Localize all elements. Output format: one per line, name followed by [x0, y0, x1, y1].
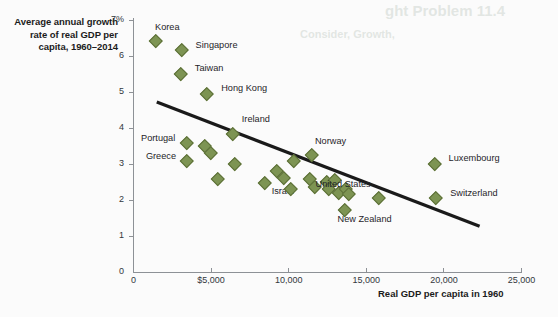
x-tick-mark: [366, 268, 367, 272]
scatter-point-label: New Zealand: [338, 214, 392, 224]
scatter-point-label: United States: [316, 179, 371, 189]
scatter-point[interactable]: [429, 191, 442, 204]
scatter-point-label: Greece: [146, 151, 176, 161]
x-axis-title: Real GDP per capita in 1960: [378, 288, 504, 299]
y-tick-label: 2: [84, 194, 124, 204]
y-tick-label: 7%: [84, 14, 124, 24]
scatter-point-label: Korea: [155, 22, 180, 32]
scatter-point[interactable]: [201, 87, 214, 100]
x-tick-label: $5,000: [176, 275, 246, 285]
x-tick-label: 25,000: [487, 275, 557, 285]
scatter-point[interactable]: [175, 43, 188, 56]
page-bleed-through-line-1: ght Problem 11.4: [385, 2, 505, 19]
y-tick-label: 5: [84, 86, 124, 96]
x-tick-mark: [443, 268, 444, 272]
y-tick-mark: [129, 128, 133, 129]
scatter-point[interactable]: [372, 191, 385, 204]
x-axis-line: [133, 272, 522, 273]
scatter-point-label: Hong Kong: [221, 83, 267, 93]
scatter-point[interactable]: [180, 154, 193, 167]
scatter-point[interactable]: [211, 172, 224, 185]
y-tick-label: 3: [84, 158, 124, 168]
y-tick-mark: [129, 56, 133, 57]
scatter-point-label: Luxembourg: [449, 153, 500, 163]
x-tick-mark: [288, 268, 289, 272]
y-tick-label: 6: [84, 50, 124, 60]
y-tick-mark: [129, 164, 133, 165]
chart-figure: ght Problem 11.4 Consider, Growth, Avera…: [0, 0, 558, 317]
scatter-point[interactable]: [174, 67, 187, 80]
scatter-point-label: Portugal: [141, 133, 175, 143]
page-bleed-through-line-2: Consider, Growth,: [300, 28, 395, 40]
scatter-point-label: Taiwan: [195, 63, 224, 73]
scatter-point[interactable]: [149, 34, 162, 47]
x-tick-label: 20,000: [409, 275, 479, 285]
scatter-point-label: Ireland: [242, 114, 270, 124]
scatter-point[interactable]: [226, 127, 239, 140]
scatter-point-label: Singapore: [196, 40, 238, 50]
scatter-point-label: Norway: [315, 136, 346, 146]
scatter-point[interactable]: [305, 148, 318, 161]
scatter-point[interactable]: [287, 154, 300, 167]
scatter-point[interactable]: [428, 157, 441, 170]
x-tick-mark: [211, 268, 212, 272]
y-tick-label: 4: [84, 122, 124, 132]
x-tick-label: 0: [99, 275, 169, 285]
scatter-point[interactable]: [258, 176, 271, 189]
x-tick-label: 10,000: [254, 275, 324, 285]
scatter-point-label: Switzerland: [450, 188, 498, 198]
y-tick-label: 1: [84, 230, 124, 240]
y-axis-line: [133, 18, 134, 272]
x-tick-mark: [521, 268, 522, 272]
x-tick-label: 15,000: [331, 275, 401, 285]
y-tick-mark: [129, 200, 133, 201]
scatter-point[interactable]: [228, 157, 241, 170]
y-tick-mark: [129, 236, 133, 237]
y-tick-mark: [129, 92, 133, 93]
y-tick-mark: [129, 20, 133, 21]
scatter-point[interactable]: [180, 136, 193, 149]
